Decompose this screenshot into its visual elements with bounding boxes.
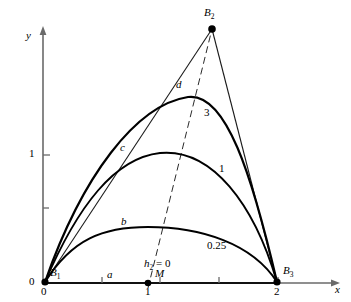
point-label-b2-main: B (204, 6, 211, 18)
chart-figure: y x 0 1 0 1 2 B1 B2 B3 M a b c d h2 = 0 … (0, 0, 351, 302)
annotation-value-3: 3 (204, 107, 210, 118)
chart-plot-area (0, 0, 351, 302)
point-label-b1-main: B (50, 266, 57, 278)
y-axis-label: y (26, 30, 31, 41)
dashed-median-line (148, 29, 212, 288)
y-tick-label-1: 1 (29, 148, 35, 159)
y-axis-arrowhead (40, 26, 47, 35)
point-label-b3-main: B (283, 264, 290, 276)
point-label-b1: B1 (50, 267, 60, 281)
x-axis-label: x (335, 284, 340, 295)
point-label-b2: B2 (204, 7, 214, 21)
point-label-b2-sub: 2 (211, 12, 215, 21)
curve-d (45, 97, 277, 282)
point-label-b1-sub: 1 (57, 272, 61, 281)
point-label-b3-sub: 3 (290, 270, 294, 279)
annotation-value-1: 1 (219, 163, 225, 174)
curve-label-d: d (176, 79, 182, 90)
x-tick-label-1: 1 (145, 286, 151, 297)
annotation-value-0-25: 0.25 (207, 240, 226, 251)
annotation-h2-equals-zero: h2 = 0 (144, 258, 170, 272)
curve-label-a: a (107, 269, 113, 280)
curve-label-c: c (120, 142, 125, 153)
point-b2-marker (208, 25, 216, 33)
annotation-h2-rest: = 0 (153, 257, 170, 269)
curve-label-b: b (121, 216, 127, 227)
x-tick-label-0: 0 (41, 286, 47, 297)
y-tick-label-0: 0 (29, 276, 35, 287)
point-label-b3: B3 (283, 265, 293, 279)
x-tick-label-2: 2 (274, 286, 280, 297)
